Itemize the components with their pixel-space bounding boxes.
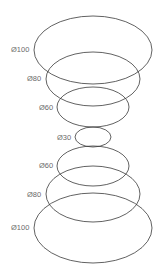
label-d100-top: Ø100 [11, 45, 29, 54]
ellipse-group-6: Ø100 [11, 193, 152, 263]
ellipse-group-3: Ø30 [57, 127, 111, 147]
label-d60-top: Ø60 [39, 103, 53, 112]
ellipse-d30-middle [75, 127, 111, 147]
ellipse-d60-top [57, 87, 129, 127]
ellipse-stack-diagram: Ø100 Ø80 Ø60 Ø30 Ø60 Ø80 Ø100 [0, 0, 158, 277]
label-d80-bottom: Ø80 [27, 190, 41, 199]
ellipse-group-5: Ø80 [27, 166, 140, 222]
ellipse-d80-top [46, 52, 140, 106]
label-d60-bottom: Ø60 [39, 161, 53, 170]
ellipse-d100-bottom [34, 193, 152, 263]
label-d80-top: Ø80 [27, 74, 41, 83]
ellipse-d100-top [34, 16, 152, 84]
label-d30-middle: Ø30 [57, 133, 71, 142]
ellipse-d80-bottom [46, 166, 140, 222]
label-d100-bottom: Ø100 [11, 223, 29, 232]
